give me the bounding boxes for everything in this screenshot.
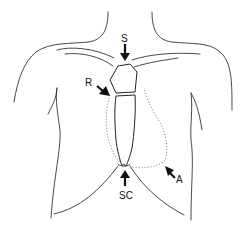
left-torso-side (51, 88, 60, 218)
left-costal-margin (54, 166, 118, 214)
label-sc: SC (119, 190, 133, 201)
apical-arrow (165, 166, 175, 178)
left-clavicle-upper (57, 48, 114, 58)
left-clavicle-lower (65, 54, 113, 67)
manubrium (110, 64, 137, 93)
right-torso-side (191, 93, 193, 220)
label-a: A (176, 174, 183, 185)
right-parasternal-arrow (97, 86, 110, 96)
label-r: R (85, 77, 92, 88)
left-armpit-line (48, 88, 57, 114)
sternum-body (115, 95, 135, 166)
suprasternal-arrow (120, 44, 130, 61)
right-armpit-line (191, 93, 202, 130)
right-clavicle-lower (134, 58, 178, 67)
right-clavicle-upper (132, 53, 200, 60)
label-s: S (121, 33, 128, 44)
subcostal-arrow (120, 170, 130, 186)
torso-diagram: S R SC A (0, 0, 242, 234)
